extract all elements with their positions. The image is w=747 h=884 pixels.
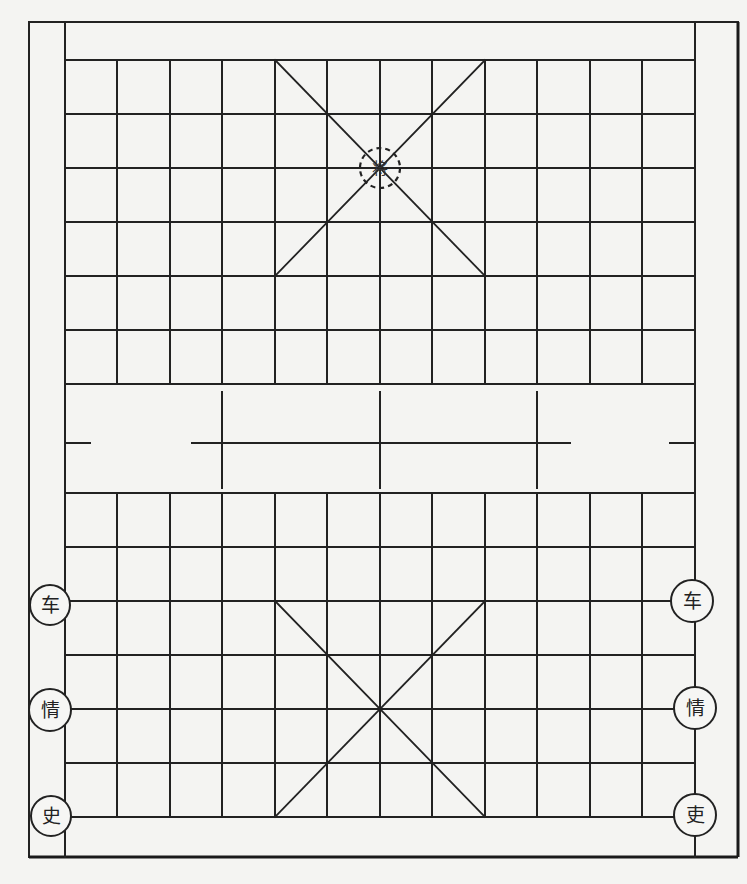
piece-label: 车 — [683, 590, 702, 612]
xiangqi-board-diagram: 将 车 情 史 车 情 — [0, 0, 747, 884]
piece-left-che: 车 — [30, 585, 70, 625]
marker-label: 将 — [372, 159, 388, 178]
piece-left-shi: 史 — [31, 796, 71, 836]
piece-left-qing: 情 — [29, 689, 71, 731]
piece-label: 情 — [686, 697, 705, 719]
piece-label: 情 — [41, 699, 60, 721]
piece-label: 车 — [41, 594, 60, 616]
piece-label: 吏 — [686, 804, 705, 826]
piece-right-qing: 情 — [674, 687, 716, 729]
piece-label: 史 — [42, 805, 61, 827]
board-svg: 将 车 情 史 车 情 — [0, 0, 747, 884]
grid-lines — [29, 22, 738, 857]
piece-right-che: 车 — [671, 580, 713, 622]
piece-right-li: 吏 — [674, 794, 716, 836]
